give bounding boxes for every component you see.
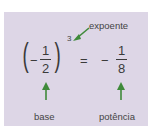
base-label: base: [34, 112, 55, 122]
base-arrow-icon: [42, 82, 50, 90]
power-label: potência: [99, 112, 135, 122]
power-arrow-icon: [117, 82, 125, 90]
